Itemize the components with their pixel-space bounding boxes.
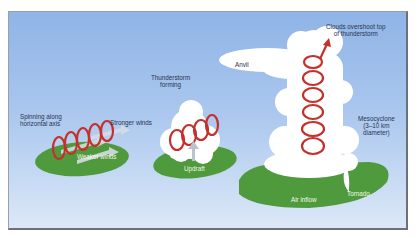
supercell-cloud: [219, 26, 359, 178]
label-mesocyclone: Mesocyclone (3–10 km diameter): [358, 115, 395, 136]
label-spinning-horizontal: Spinning along horizontal axis: [20, 113, 62, 127]
label-weaker-winds: Weaker winds: [77, 153, 116, 160]
stage2-cloud: [160, 100, 220, 164]
label-stronger-winds: Stronger winds: [110, 119, 152, 126]
label-air-inflow: Air inflow: [291, 196, 317, 203]
label-tornado: Tornado: [347, 190, 370, 197]
label-updraft: Updraft: [184, 165, 205, 172]
diagram-frame: Spinning along horizontal axis Stronger …: [8, 11, 408, 230]
label-anvil: Anvil: [235, 61, 249, 68]
label-thunderstorm-forming: Thunderstorm forming: [151, 74, 190, 88]
label-clouds-overshoot: Clouds overshoot top of thunderstorm: [326, 23, 386, 37]
